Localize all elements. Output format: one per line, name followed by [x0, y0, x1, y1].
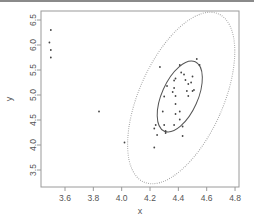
- data-point: [183, 74, 185, 76]
- data-point: [186, 90, 188, 92]
- data-point: [179, 64, 181, 66]
- data-point: [50, 29, 52, 31]
- data-point: [175, 103, 177, 105]
- data-point: [163, 124, 165, 126]
- data-point: [155, 124, 157, 126]
- x-tick-label: 3.6: [59, 193, 71, 203]
- data-point: [153, 128, 155, 130]
- x-tick-label: 4.4: [172, 193, 184, 203]
- data-point: [182, 135, 184, 137]
- x-tick-label: 4.6: [201, 193, 213, 203]
- data-point: [49, 42, 51, 44]
- y-tick-label: 4.5: [28, 114, 38, 126]
- x-tick-label: 4.2: [144, 193, 156, 203]
- y-tick-label: 5.0: [28, 89, 38, 101]
- plot-frame: [41, 11, 239, 187]
- data-point: [185, 79, 187, 81]
- x-tick-label: 3.8: [87, 193, 99, 203]
- data-point: [190, 82, 192, 84]
- y-axis-title: y: [4, 96, 14, 101]
- data-point: [179, 119, 181, 121]
- data-point: [165, 130, 167, 132]
- data-point: [182, 126, 184, 128]
- data-point: [159, 66, 161, 68]
- data-point: [179, 111, 181, 113]
- data-point: [173, 80, 175, 82]
- data-point: [50, 49, 52, 51]
- data-point: [163, 96, 165, 98]
- data-point: [192, 90, 194, 92]
- data-point: [175, 95, 177, 97]
- data-point: [156, 134, 158, 136]
- y-tick-label: 6.5: [28, 14, 38, 26]
- x-axis-title: x: [138, 206, 143, 216]
- data-point: [196, 58, 198, 60]
- data-point: [192, 76, 194, 78]
- data-point: [199, 64, 201, 66]
- data-point: [162, 111, 164, 113]
- data-point: [173, 124, 175, 126]
- data-point: [50, 57, 52, 59]
- data-point: [173, 87, 175, 89]
- y-axis: 3.54.04.55.05.56.06.5: [28, 14, 41, 176]
- data-point: [166, 85, 168, 87]
- data-point: [98, 111, 100, 113]
- data-point: [175, 113, 177, 115]
- data-point: [175, 78, 177, 80]
- data-point: [180, 72, 182, 74]
- x-tick-label: 4.0: [116, 193, 128, 203]
- y-tick-label: 3.5: [28, 164, 38, 176]
- data-point: [124, 142, 126, 144]
- data-point: [187, 83, 189, 85]
- data-point: [172, 91, 174, 93]
- y-tick-label: 6.0: [28, 39, 38, 51]
- data-point: [153, 147, 155, 149]
- y-tick-label: 5.5: [28, 64, 38, 76]
- y-tick-label: 4.0: [28, 139, 38, 151]
- data-point: [165, 132, 167, 134]
- scatter-chart: 3.63.84.04.24.44.64.8 3.54.04.55.05.56.0…: [0, 0, 254, 222]
- x-tick-label: 4.8: [229, 193, 241, 203]
- data-point: [187, 95, 189, 97]
- x-axis: 3.63.84.04.24.44.64.8: [59, 187, 241, 203]
